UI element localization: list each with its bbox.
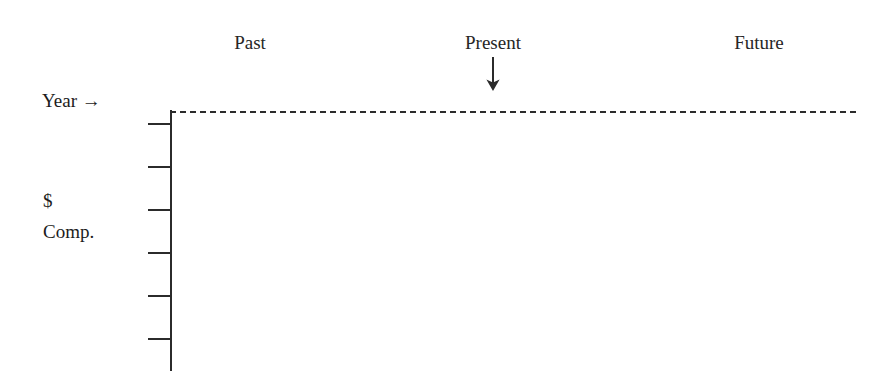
era-heading-past: Past [234, 33, 266, 52]
x-axis-label: Year → [42, 90, 101, 112]
y-axis-label-line-1: $ [43, 185, 94, 216]
plot-area [172, 113, 856, 371]
arrow-down-icon [481, 57, 505, 93]
y-axis-label: $ Comp. [43, 185, 94, 248]
y-axis-label-line-2: Comp. [43, 216, 94, 247]
y-axis-tick [148, 295, 170, 297]
y-axis-tick [148, 338, 170, 340]
y-axis-tick [148, 252, 170, 254]
y-axis-tick [148, 209, 170, 211]
era-heading-present: Present [465, 33, 521, 52]
era-heading-future: Future [734, 33, 784, 52]
y-axis-tick [148, 166, 170, 168]
y-axis-tick [148, 123, 170, 125]
chart-figure: Past Present Future Year → $ Comp. [0, 0, 892, 387]
